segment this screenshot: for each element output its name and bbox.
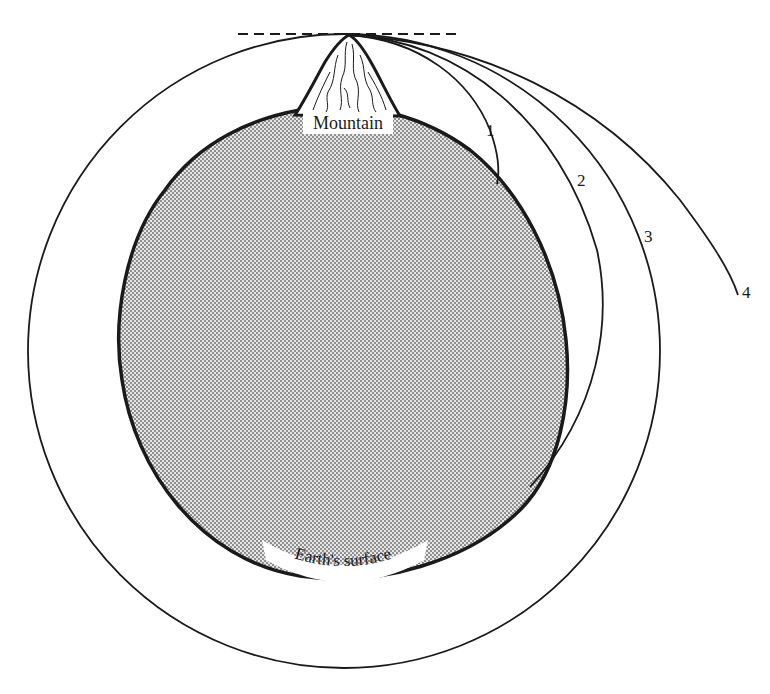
mountain-label: Mountain xyxy=(313,113,383,133)
trajectory-label-1: 1 xyxy=(486,121,495,140)
trajectory-label-2: 2 xyxy=(577,171,586,190)
earth-body xyxy=(119,110,568,579)
trajectory-label-4: 4 xyxy=(742,283,751,302)
trajectory-label-3: 3 xyxy=(644,227,653,246)
newton-cannonball-diagram: Mountain 1 2 3 4 Earth's surface xyxy=(0,0,770,694)
